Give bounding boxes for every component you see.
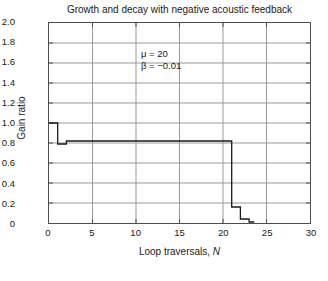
parameter-annotation: μ = 20β = −0.01 — [141, 48, 181, 72]
y-tick-label: 0 — [0, 219, 15, 229]
y-tick-label: 0.4 — [0, 179, 15, 189]
annotation-line-1: μ = 20 — [141, 48, 181, 60]
y-tick-label: 0.2 — [0, 199, 15, 209]
x-tick-label: 15 — [165, 228, 195, 238]
y-tick-label: 2.0 — [0, 17, 15, 27]
x-tick-label: 25 — [252, 228, 282, 238]
y-axis-title: Gain ratio — [16, 58, 28, 178]
y-tick-label: 1.4 — [0, 78, 15, 88]
x-tick-label: 20 — [208, 228, 238, 238]
x-tick-label: 10 — [121, 228, 151, 238]
x-tick-label: 0 — [33, 228, 63, 238]
y-tick-label: 1.8 — [0, 37, 15, 47]
x-tick-label: 30 — [296, 228, 326, 238]
chart-figure: Growth and decay with negative acoustic … — [0, 0, 328, 281]
annotation-line-2: β = −0.01 — [141, 60, 181, 72]
x-axis-title-variable: N — [213, 246, 220, 257]
chart-title: Growth and decay with negative acoustic … — [48, 4, 311, 16]
y-tick-label: 1.6 — [0, 57, 15, 67]
x-axis-title: Loop traversals, N — [48, 246, 311, 258]
x-axis-title-text: Loop traversals, — [139, 246, 213, 257]
y-tick-label: 0.8 — [0, 138, 15, 148]
x-tick-label: 5 — [77, 228, 107, 238]
y-tick-label: 0.6 — [0, 158, 15, 168]
y-tick-label: 1.0 — [0, 118, 15, 128]
y-tick-label: 1.2 — [0, 98, 15, 108]
